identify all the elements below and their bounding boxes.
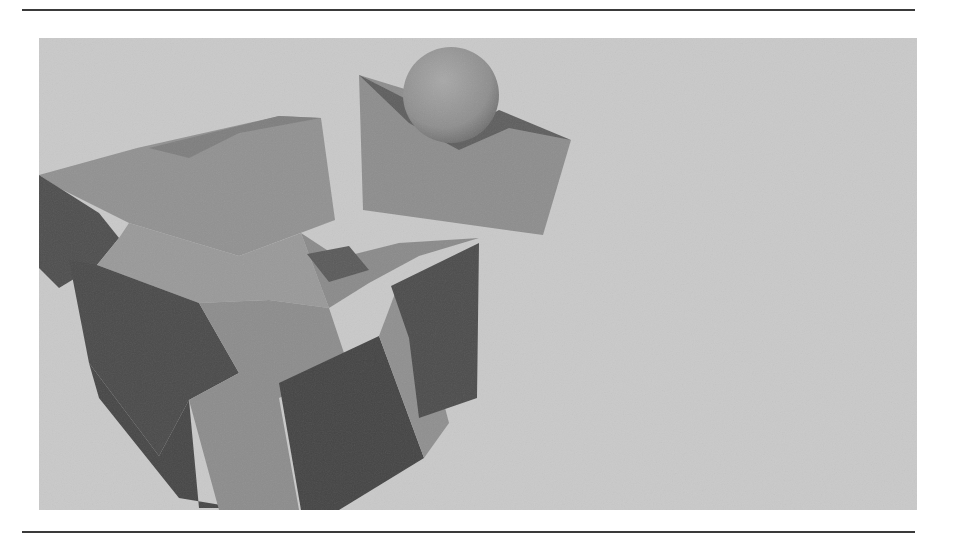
render-figure: [39, 38, 917, 510]
top-rule: [22, 9, 915, 11]
scene-graphic: [39, 38, 917, 510]
bottom-rule: [22, 531, 915, 533]
